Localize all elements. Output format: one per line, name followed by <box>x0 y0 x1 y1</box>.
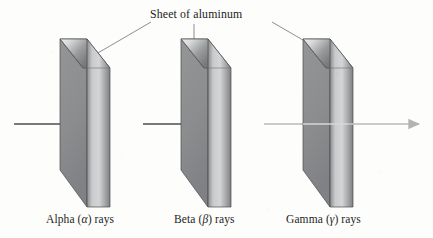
leader-line-left-icon <box>91 22 151 57</box>
sheet-side-face <box>87 39 110 207</box>
panel-gamma <box>264 39 419 207</box>
label-alpha-rays: Alpha (α) rays <box>46 213 114 225</box>
label-gamma-suffix: ) rays <box>334 213 360 225</box>
panel-beta <box>143 39 231 207</box>
label-beta-suffix: ) rays <box>208 213 234 225</box>
label-alpha-prefix: Alpha ( <box>46 213 82 225</box>
label-beta-rays: Beta (β) rays <box>174 213 235 225</box>
sheet-side-face <box>330 39 353 207</box>
aluminum-sheet-beta <box>181 39 231 207</box>
figure-title: Sheet of aluminum <box>150 7 242 22</box>
aluminum-sheet-gamma <box>303 39 353 207</box>
aluminum-sheet-alpha <box>60 39 110 207</box>
label-alpha-suffix: ) rays <box>88 213 114 225</box>
sheet-side-face <box>208 39 231 207</box>
label-gamma-prefix: Gamma ( <box>286 213 330 225</box>
radiation-penetration-figure: Sheet of aluminum Alpha (α) rays Beta (β… <box>0 0 433 238</box>
diagram-canvas <box>0 0 433 238</box>
label-gamma-rays: Gamma (γ) rays <box>286 213 361 225</box>
panel-alpha <box>14 39 110 207</box>
label-beta-prefix: Beta ( <box>174 213 202 225</box>
